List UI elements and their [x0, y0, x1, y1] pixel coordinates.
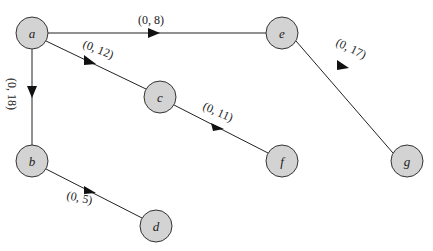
edge-label-a-e: (0, 8) — [138, 13, 164, 27]
node-g: g — [391, 145, 423, 177]
edge-label-a-b: (0, 18) — [5, 78, 19, 110]
arrow-a-e-icon — [148, 28, 160, 38]
arrow-e-g-icon — [337, 60, 349, 70]
arrow-a-c-icon — [84, 55, 96, 65]
node-a-label: a — [29, 26, 36, 41]
node-d-label: d — [153, 219, 160, 234]
node-e-label: e — [279, 26, 285, 41]
node-a: a — [16, 17, 48, 49]
edge-b-d — [46, 169, 142, 218]
node-c: c — [144, 81, 176, 113]
node-d: d — [140, 210, 172, 242]
edge-e-g — [296, 41, 393, 153]
node-b-label: b — [29, 154, 36, 169]
edge-label-e-g: (0, 17) — [334, 35, 369, 62]
edge-label-c-f: (0, 11) — [201, 99, 236, 125]
arrow-a-b-icon — [27, 86, 37, 98]
node-f: f — [266, 145, 298, 177]
node-e: e — [266, 17, 298, 49]
node-c-label: c — [157, 90, 163, 105]
node-g-label: g — [404, 154, 411, 169]
tree-diagram: (0, 8) (0, 12) (0, 18) (0, 17) (0, 11) (… — [0, 0, 433, 251]
node-b: b — [16, 145, 48, 177]
